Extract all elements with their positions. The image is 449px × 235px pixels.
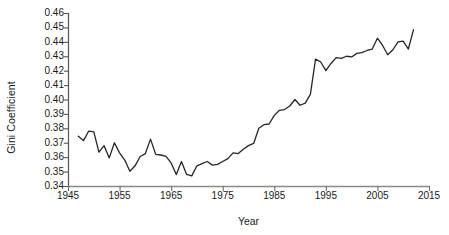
plot-area — [0, 0, 449, 235]
data-line-gini — [78, 30, 413, 176]
y-axis-tick-marks — [64, 14, 68, 187]
axis-lines — [68, 13, 429, 187]
chart-figure: Gini Coefficient Year 0.340.350.360.370.… — [0, 0, 449, 235]
